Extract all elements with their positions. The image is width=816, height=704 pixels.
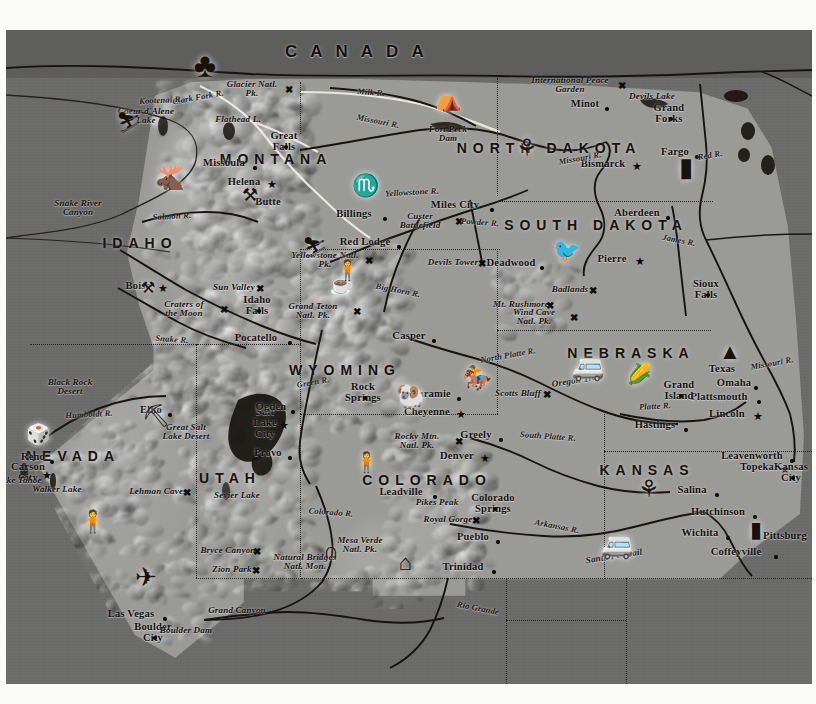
feature-marker-yellowstone-natl-pk-: ✖ [365, 256, 373, 266]
city-dot-miles-city [490, 208, 494, 212]
city-dot-trinidad [492, 570, 496, 574]
feature-label-pikes-peak: Pikes Peak [416, 498, 459, 507]
feature-label-sevier-lake: Sevier Lake [214, 491, 260, 500]
city-dot-omaha [754, 386, 758, 390]
city-label-miles-city: Miles City [431, 199, 479, 210]
city-label-wichita: Wichita [682, 527, 719, 538]
feature-label-fort-peck-dam: Fort PeckDam [429, 125, 468, 143]
pueblo-icon: ⌂ [398, 552, 411, 574]
smokestack-icon: ▮ [750, 519, 762, 541]
city-label-coffeyville: Coffeyville [711, 546, 762, 557]
city-label-hastings: Hastings [635, 419, 676, 430]
city-dot-minot [605, 107, 609, 111]
city-dot-kansas-city [791, 476, 795, 480]
feature-marker-scotts-bluff: ✖ [543, 390, 551, 400]
feature-marker-international-peace-garden: ✖ [618, 81, 626, 91]
corn-icon: 🌽 [627, 364, 652, 384]
feature-marker-zion-park: ✖ [252, 566, 260, 576]
feature-label-bryce-canyon: Bryce Canyon [200, 546, 255, 555]
grain-elevator-icon: ▮ [679, 155, 693, 181]
city-label-pocatello: Pocatello [235, 332, 278, 343]
city-label-rock-springs: RockSprings [345, 381, 381, 403]
city-label-omaha: Omaha [717, 377, 751, 388]
feature-marker-glacier-natl-pk-: ✖ [285, 85, 293, 95]
state-label-utah: UTAH [199, 470, 261, 486]
city-label-grand-forks: GrandForks [654, 102, 685, 124]
feature-label-flathead-l-: Flathead L. [215, 115, 261, 124]
city-dot-pueblo [496, 540, 500, 544]
feature-label-black-rock-desert: Black RockDesert [48, 378, 93, 396]
city-label-casper: Casper [392, 330, 425, 341]
city-dot-grand-forks [669, 117, 673, 121]
feature-label-lake-tahoe: Lake Tahoe [0, 476, 42, 485]
photo-border-right [812, 0, 816, 704]
feature-marker-sun-valley: ✖ [256, 284, 264, 294]
feature-marker-badlands: ✖ [589, 286, 597, 296]
mining-head-icon: ⛏ [142, 405, 170, 427]
photo-border-left [0, 0, 6, 704]
city-dot-plattsmouth [757, 400, 761, 404]
feature-marker-devils-tower: ✖ [478, 259, 486, 269]
city-label-idaho-falls: IdahoFalls [243, 294, 270, 316]
city-label-leavenworth: Leavenworth [721, 450, 783, 461]
city-dot-great-falls [284, 145, 288, 149]
capital-star-lincoln: ★ [753, 411, 763, 422]
city-dot-aberdeen [666, 216, 670, 220]
city-label-pittsburg: Pittsburg [763, 530, 807, 541]
capital-star-boise: ★ [158, 283, 168, 294]
city-label-sioux-falls: SiouxFalls [693, 278, 719, 300]
capital-star-denver: ★ [480, 453, 490, 464]
covered-wagon-icon: 🚐 [572, 355, 604, 381]
city-dot-laramie [457, 397, 461, 401]
state-label-north-dakota: NORTH DAKOTA [457, 140, 642, 156]
city-label-pueblo: Pueblo [457, 531, 489, 542]
city-dot-salina [715, 493, 719, 497]
feature-label-international-peace-garden: International PeaceGarden [531, 76, 609, 94]
city-label-red-lodge: Red Lodge [340, 236, 391, 247]
prospector-icon-3: 🧍 [335, 260, 360, 280]
city-dot-hastings [684, 428, 688, 432]
river-label-salmon-r--9: Salmon R. [152, 210, 191, 222]
feature-marker-lehman-caves: ✖ [183, 488, 191, 498]
city-dot-grand-island [679, 394, 683, 398]
city-label-hutchinson: Hutchinson [691, 506, 745, 517]
feature-label-craters-of-the-moon: Craters ofthe Moon [164, 300, 203, 318]
prospector-icon-2: 🧍 [354, 452, 379, 472]
city-dot-deadwood [540, 266, 544, 270]
feature-label-custer-battlefield: CusterBattlefield [400, 212, 441, 230]
city-label-grand-island: GrandIsland [664, 379, 695, 401]
feature-label-snake-river-canyon: Snake RiverCanyon [54, 199, 101, 217]
feature-label-rocky-mtn-natl-pk-: Rocky Mtn.Natl. Pk. [394, 432, 439, 450]
feature-marker-wind-cave-natl-pk-: ✖ [570, 313, 578, 323]
feature-label-grand-canyon: Grand Canyon [208, 606, 266, 615]
prospector-icon: 🧍 [79, 511, 106, 533]
feature-label-devils-lake: Devils Lake [629, 92, 675, 101]
grain-icon-kansas: ⚘ [638, 477, 660, 501]
feature-marker-bryce-canyon: ✖ [253, 547, 261, 557]
feature-label-glacier-natl-pk-: Glacier Natl.Pk. [227, 80, 278, 98]
photo-border-top [0, 0, 816, 30]
city-label-denver: Denver [440, 450, 474, 461]
city-label-greely: Greely [460, 429, 491, 440]
moose-icon: 🫎 [155, 166, 185, 190]
city-label-butte: Butte [255, 196, 281, 207]
photo-border-bottom [0, 684, 816, 704]
city-dot-missoula [253, 166, 257, 170]
city-dot-casper [432, 339, 436, 343]
feature-label-scotts-bluff: Scotts Bluff [495, 389, 541, 398]
feature-label-mesa-verde-natl-pk-: Mesa VerdeNatl. Pk. [337, 536, 382, 554]
capital-star-helena: ★ [267, 179, 277, 190]
city-label-missoula: Missoula [203, 157, 245, 168]
map-screenshot: MONTANAIDAHOWYOMINGNEVADAUTAHCOLORADONOR… [0, 0, 816, 704]
state-label-south-dakota: SOUTH DAKOTA [504, 217, 688, 233]
capital-star-carson-city: ★ [42, 470, 52, 481]
city-label-pierre: Pierre [598, 253, 627, 264]
city-dot-ogden [291, 410, 295, 414]
country-label-canada: CANADA [285, 42, 437, 62]
city-dot-billings [383, 217, 387, 221]
city-label-topeka: Topeka [740, 461, 774, 472]
feature-marker-rocky-mtn-natl-pk-: ✖ [455, 437, 463, 447]
capital-star-bismarck: ★ [632, 161, 642, 172]
city-dot-greely [499, 438, 503, 442]
dice-icon: 🎲 [26, 424, 51, 444]
